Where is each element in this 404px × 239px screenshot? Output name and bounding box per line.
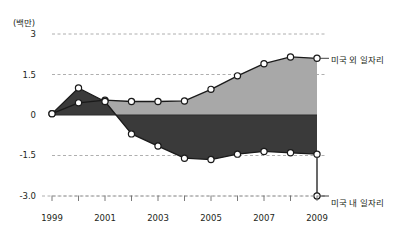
data-point-foreign-jobs xyxy=(261,61,267,67)
data-point-domestic-jobs xyxy=(234,151,240,157)
data-point-domestic-jobs xyxy=(314,151,320,157)
data-point-foreign-jobs xyxy=(314,55,320,61)
data-point-domestic-jobs xyxy=(261,148,267,154)
plot-svg xyxy=(0,0,404,239)
data-point-domestic-jobs xyxy=(155,143,161,149)
data-point-domestic-jobs xyxy=(208,156,214,162)
data-point-domestic-jobs xyxy=(181,155,187,161)
data-point-foreign-jobs xyxy=(234,73,240,79)
data-point-domestic-jobs xyxy=(75,85,81,91)
chart-container: (백만) 3 1.5 0 -1.5 -3.0 1999 2001 2003 20… xyxy=(0,0,404,239)
data-point-domestic-jobs xyxy=(102,98,108,104)
data-point-domestic-jobs xyxy=(49,111,55,117)
data-point-domestic-jobs xyxy=(128,131,134,137)
data-point-domestic-jobs xyxy=(287,150,293,156)
data-point-foreign-jobs xyxy=(75,100,81,106)
data-point-foreign-jobs xyxy=(155,98,161,104)
data-point-foreign-jobs xyxy=(128,98,134,104)
data-point-foreign-jobs xyxy=(181,98,187,104)
data-point-foreign-jobs xyxy=(287,54,293,60)
data-point-foreign-jobs xyxy=(208,86,214,92)
